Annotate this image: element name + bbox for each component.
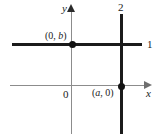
point-y-intercept-dot [69,41,76,48]
x-intercept-label-close: , 0) [100,87,113,98]
x-intercept-label: (a, 0) [92,88,114,98]
coordinate-plane-figure: y x 0 2 1 (0, b) (a, 0) [0,0,160,134]
origin-label: 0 [63,89,69,100]
y-intercept-label: (0, b) [45,31,67,41]
y-axis-line [71,12,72,134]
line-1-label: 1 [147,39,153,50]
y-intercept-label-close: ) [63,30,66,41]
x-axis-line [10,85,146,86]
x-axis-label: x [146,88,151,99]
y-axis-arrowhead-icon [67,4,75,12]
y-intercept-label-open: (0, [45,30,58,41]
y-axis-label: y [62,3,67,14]
point-x-intercept-dot [118,83,125,90]
line-2-vertical [120,14,123,134]
line-2-label: 2 [118,2,124,13]
